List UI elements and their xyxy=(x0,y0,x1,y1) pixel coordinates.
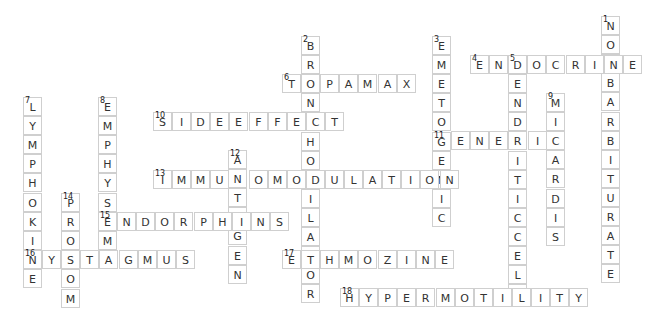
grid-cell[interactable]: S10 xyxy=(153,112,172,131)
grid-cell[interactable]: N xyxy=(251,212,270,231)
grid-cell[interactable]: I xyxy=(493,288,512,307)
grid-cell[interactable]: E xyxy=(287,112,306,131)
grid-cell[interactable]: H xyxy=(98,154,117,173)
grid-cell[interactable]: R xyxy=(601,112,620,131)
grid-cell[interactable]: L xyxy=(512,288,531,307)
grid-cell[interactable]: I xyxy=(531,288,550,307)
grid-cell[interactable]: D xyxy=(191,112,210,131)
grid-cell[interactable]: O xyxy=(432,112,451,131)
grid-cell[interactable]: E xyxy=(432,151,451,170)
grid-cell[interactable]: M xyxy=(138,250,157,269)
grid-cell[interactable]: E15 xyxy=(98,212,117,231)
grid-cell[interactable]: A xyxy=(339,74,358,93)
grid-cell[interactable]: N16 xyxy=(23,250,42,269)
grid-cell[interactable]: Y xyxy=(42,250,61,269)
grid-cell[interactable]: M xyxy=(339,250,358,269)
grid-cell[interactable]: N1 xyxy=(601,16,620,35)
grid-cell[interactable]: T xyxy=(601,245,620,264)
grid-cell[interactable]: T xyxy=(550,288,569,307)
grid-cell[interactable]: P14 xyxy=(61,193,80,212)
grid-cell[interactable]: N xyxy=(440,170,459,189)
grid-cell[interactable]: T xyxy=(601,169,620,188)
grid-cell[interactable]: E4 xyxy=(470,55,489,74)
grid-cell[interactable]: N xyxy=(489,55,508,74)
grid-cell[interactable]: N xyxy=(228,169,247,188)
grid-cell[interactable]: E xyxy=(508,246,527,265)
grid-cell[interactable]: R xyxy=(508,131,527,150)
grid-cell[interactable]: F xyxy=(249,112,268,131)
grid-cell[interactable]: H xyxy=(320,250,339,269)
grid-cell[interactable]: U xyxy=(325,170,344,189)
grid-cell[interactable]: B xyxy=(601,73,620,92)
grid-cell[interactable]: O xyxy=(61,231,80,250)
grid-cell[interactable]: L7 xyxy=(23,97,42,116)
grid-cell[interactable]: P xyxy=(194,212,213,231)
grid-cell[interactable]: N xyxy=(508,93,527,112)
grid-cell[interactable]: R xyxy=(301,55,320,74)
grid-cell[interactable]: Y xyxy=(359,288,378,307)
grid-cell[interactable]: S xyxy=(546,227,565,246)
grid-cell[interactable]: A xyxy=(99,250,118,269)
grid-cell[interactable]: B xyxy=(601,131,620,150)
grid-cell[interactable]: A xyxy=(301,227,320,246)
grid-cell[interactable]: R xyxy=(601,207,620,226)
grid-cell[interactable]: T xyxy=(432,93,451,112)
grid-cell[interactable]: A xyxy=(378,74,397,93)
grid-cell[interactable]: I xyxy=(508,189,527,208)
grid-cell[interactable]: A12 xyxy=(228,150,247,169)
grid-cell[interactable]: Y xyxy=(98,173,117,192)
grid-cell[interactable]: E xyxy=(451,131,470,150)
grid-cell[interactable]: E3 xyxy=(432,36,451,55)
grid-cell[interactable]: U xyxy=(601,188,620,207)
grid-cell[interactable]: I xyxy=(301,189,320,208)
grid-cell[interactable]: C xyxy=(546,55,565,74)
grid-cell[interactable]: D5 xyxy=(508,55,527,74)
grid-cell[interactable]: R xyxy=(174,212,193,231)
grid-cell[interactable]: H xyxy=(23,173,42,192)
grid-cell[interactable]: O xyxy=(61,269,80,288)
grid-cell[interactable]: I xyxy=(23,231,42,250)
grid-cell[interactable]: E xyxy=(229,112,248,131)
grid-cell[interactable]: R xyxy=(61,212,80,231)
grid-cell[interactable]: T xyxy=(508,170,527,189)
grid-cell[interactable]: N xyxy=(301,93,320,112)
grid-cell[interactable]: M xyxy=(172,170,191,189)
grid-cell[interactable]: E xyxy=(228,246,247,265)
grid-cell[interactable]: I xyxy=(528,131,547,150)
grid-cell[interactable]: O xyxy=(301,151,320,170)
grid-cell[interactable]: C xyxy=(546,131,565,150)
grid-cell[interactable]: L xyxy=(508,265,527,284)
grid-cell[interactable]: S xyxy=(98,193,117,212)
grid-cell[interactable]: T6 xyxy=(282,74,301,93)
grid-cell[interactable]: N xyxy=(470,131,489,150)
grid-cell[interactable]: E xyxy=(23,269,42,288)
grid-cell[interactable]: K xyxy=(23,212,42,231)
grid-cell[interactable]: I xyxy=(172,112,191,131)
grid-cell[interactable]: S xyxy=(61,250,80,269)
grid-cell[interactable]: O xyxy=(358,250,377,269)
grid-cell[interactable]: I xyxy=(232,212,251,231)
grid-cell[interactable]: N xyxy=(117,212,136,231)
grid-cell[interactable]: R xyxy=(566,55,585,74)
grid-cell[interactable]: O xyxy=(420,170,439,189)
grid-cell[interactable]: H18 xyxy=(340,288,359,307)
grid-cell[interactable]: M xyxy=(191,170,210,189)
grid-cell[interactable]: A xyxy=(363,170,382,189)
grid-cell[interactable]: E xyxy=(508,74,527,93)
grid-cell[interactable]: I xyxy=(585,55,604,74)
grid-cell[interactable]: M xyxy=(61,289,80,308)
grid-cell[interactable]: H xyxy=(213,212,232,231)
grid-cell[interactable]: F xyxy=(268,112,287,131)
grid-cell[interactable]: O xyxy=(455,288,474,307)
grid-cell[interactable]: T xyxy=(474,288,493,307)
grid-cell[interactable]: O xyxy=(287,170,306,189)
grid-cell[interactable]: P xyxy=(98,135,117,154)
grid-cell[interactable]: M xyxy=(358,74,377,93)
grid-cell[interactable]: G xyxy=(119,250,138,269)
grid-cell[interactable]: O xyxy=(155,212,174,231)
grid-cell[interactable]: D xyxy=(306,170,325,189)
grid-cell[interactable]: N xyxy=(416,250,435,269)
grid-cell[interactable]: I xyxy=(432,189,451,208)
grid-cell[interactable]: M xyxy=(436,288,455,307)
grid-cell[interactable]: A xyxy=(601,92,620,111)
